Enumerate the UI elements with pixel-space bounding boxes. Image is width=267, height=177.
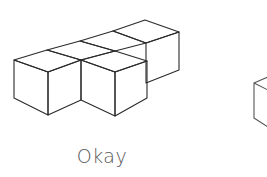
middle-back-cube-top-face (80, 31, 146, 51)
left-cube-side-face (48, 60, 81, 115)
back-cube-right-face (146, 32, 179, 83)
figure-caption: Okay (74, 145, 130, 167)
back-left-cube-top-face (47, 41, 115, 60)
back-cube-top-face (113, 20, 179, 43)
front-cube-top-face (81, 51, 147, 72)
front-cube-right-face (115, 61, 147, 116)
front-cube-left-face (81, 60, 115, 116)
partial-cube (254, 77, 267, 127)
cube-arrangement-figure (0, 0, 267, 177)
left-cube-top-face (14, 50, 81, 72)
left-cube-front-face (14, 60, 48, 115)
cube-structure (14, 20, 179, 116)
